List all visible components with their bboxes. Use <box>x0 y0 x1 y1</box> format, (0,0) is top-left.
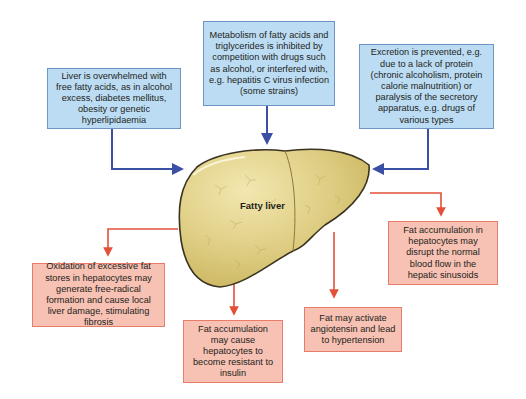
cause-box-metabolism-inhibited: Metabolism of fatty acids and triglyceri… <box>203 21 335 106</box>
effect-text: Oxidation of excessive fat stores in hep… <box>38 261 159 328</box>
effect-box-oxidation: Oxidation of excessive fat stores in hep… <box>32 263 165 327</box>
cause-box-excretion-prevented: Excretion is prevented, e.g. due to a la… <box>359 44 494 129</box>
effect-text: Fat may activate angiotensin and lead to… <box>310 313 396 347</box>
liver-illustration <box>175 145 375 290</box>
effect-box-blood-flow: Fat accumulation in hepatocytes may disr… <box>388 221 498 285</box>
effect-box-hypertension: Fat may activate angiotensin and lead to… <box>304 307 402 352</box>
cause-box-free-fatty-acids: Liver is overwhelmed with free fatty aci… <box>47 68 181 129</box>
cause-text: Metabolism of fatty acids and triglyceri… <box>209 30 329 97</box>
effect-text: Fat accumulation in hepatocytes may disr… <box>394 225 492 281</box>
cause-text: Liver is overwhelmed with free fatty aci… <box>53 71 175 127</box>
effect-box-insulin-resistance: Fat accumulation may cause hepatocytes t… <box>183 320 283 383</box>
effect-text: Fat accumulation may cause hepatocytes t… <box>189 324 277 380</box>
cause-text: Excretion is prevented, e.g. due to a la… <box>365 47 488 125</box>
fatty-liver-label: Fatty liver <box>240 200 285 211</box>
